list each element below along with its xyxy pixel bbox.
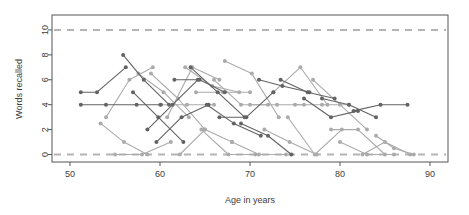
plot-frame (52, 15, 448, 162)
data-point (230, 140, 234, 144)
data-point (248, 103, 252, 107)
data-point (239, 121, 243, 125)
data-point (280, 84, 284, 88)
data-point (226, 153, 230, 157)
data-point (135, 103, 139, 107)
data-point (216, 90, 220, 94)
data-point (149, 72, 153, 76)
data-point (412, 153, 416, 157)
data-point (289, 153, 293, 157)
data-point (374, 134, 378, 138)
data-point (392, 153, 396, 157)
subject-trajectory (101, 123, 148, 154)
data-point (185, 103, 189, 107)
data-point (313, 153, 317, 157)
x-tick-label: 50 (65, 169, 75, 179)
data-point (286, 115, 290, 119)
data-point (79, 90, 83, 94)
data-point (329, 115, 333, 119)
data-point (275, 103, 279, 107)
data-point (159, 103, 163, 107)
data-point (392, 146, 396, 150)
data-point (379, 103, 383, 107)
data-point (104, 103, 108, 107)
data-point (352, 109, 356, 113)
subject-trajectory (281, 80, 335, 99)
data-point (223, 90, 227, 94)
data-point (239, 103, 243, 107)
data-point (223, 59, 227, 63)
data-point (288, 140, 292, 144)
data-point (212, 78, 216, 82)
data-point (212, 103, 216, 107)
data-point (262, 128, 266, 132)
subject-trajectory (201, 130, 255, 155)
data-point (244, 115, 248, 119)
data-point (165, 115, 169, 119)
data-point (104, 115, 108, 119)
data-point (284, 153, 288, 157)
data-point (178, 153, 182, 157)
data-point (79, 103, 83, 107)
data-point (347, 103, 351, 107)
data-point (306, 90, 310, 94)
data-point (298, 65, 302, 69)
subject-trajectory (288, 117, 342, 154)
subject-trajectory (81, 67, 126, 92)
data-point (356, 128, 360, 132)
data-point (248, 90, 252, 94)
subject-trajectory (207, 105, 261, 136)
data-point (338, 140, 342, 144)
data-point (171, 103, 175, 107)
x-tick-label: 90 (425, 169, 435, 179)
data-point (172, 78, 176, 82)
subject-trajectory (363, 142, 411, 154)
data-point (189, 65, 193, 69)
data-point (198, 78, 202, 82)
data-point (183, 65, 187, 69)
data-point (151, 65, 155, 69)
subject-trajectory (225, 61, 279, 117)
y-tick-label: 4 (40, 102, 50, 107)
subject-trajectory (106, 67, 153, 117)
y-tick-label: 10 (40, 25, 50, 35)
data-point (257, 78, 261, 82)
data-point (232, 121, 236, 125)
data-point (99, 121, 103, 125)
data-point (320, 103, 324, 107)
data-point (374, 115, 378, 119)
y-tick-label: 0 (40, 152, 50, 157)
data-point (142, 78, 146, 82)
data-point (181, 140, 185, 144)
data-point (250, 72, 254, 76)
data-point (121, 53, 125, 57)
data-point (361, 153, 365, 157)
data-point (145, 128, 149, 132)
data-point (311, 78, 315, 82)
x-tick-label: 60 (155, 169, 165, 179)
data-point (279, 78, 283, 82)
data-point (187, 115, 191, 119)
data-point (124, 65, 128, 69)
data-point (217, 115, 221, 119)
x-tick-label: 80 (335, 169, 345, 179)
data-point (194, 90, 198, 94)
data-point (271, 90, 275, 94)
data-point (154, 140, 158, 144)
data-point (266, 134, 270, 138)
y-tick-label: 8 (40, 52, 50, 57)
y-tick-label: 2 (40, 127, 50, 132)
data-point (169, 140, 173, 144)
data-point (199, 128, 203, 132)
data-point (293, 103, 297, 107)
data-point (131, 90, 135, 94)
y-tick-label: 6 (40, 77, 50, 82)
data-point (277, 115, 281, 119)
words-recalled-scatter-line-chart: 02468105060708090 (0, 0, 469, 215)
data-point (95, 90, 99, 94)
data-point (329, 128, 333, 132)
data-point (180, 115, 184, 119)
data-point (113, 153, 117, 157)
data-point (320, 97, 324, 101)
data-point (365, 128, 369, 132)
